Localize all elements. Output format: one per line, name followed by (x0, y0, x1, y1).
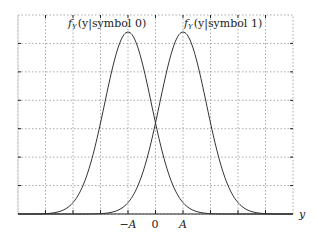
tick-label-neg-a: −A (119, 218, 136, 231)
tick-label-zero: 0 (152, 218, 159, 231)
label-curve-symbol-0: fY(y|symbol 0) (67, 17, 146, 31)
x-axis-label: y (298, 208, 306, 221)
tick-label-a: A (178, 218, 187, 231)
chart: fY(y|symbol 0) fY(y|symbol 1) −A 0 A y (0, 0, 318, 239)
label-curve-symbol-1: fY(y|symbol 1) (183, 17, 262, 31)
grid-lines (18, 15, 293, 214)
